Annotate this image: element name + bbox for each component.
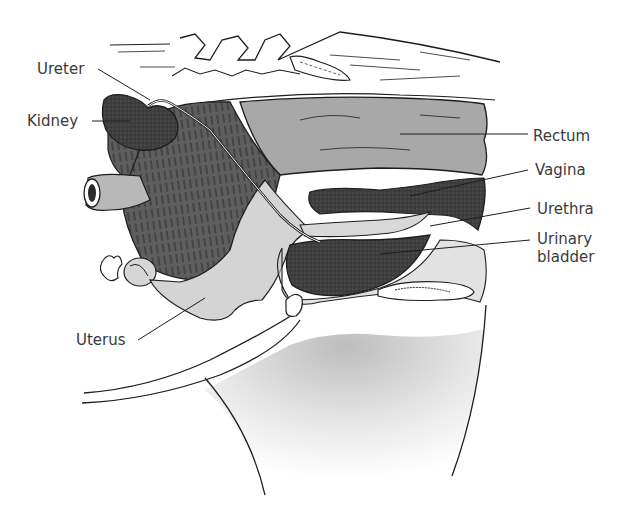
label-uterus: Uterus [76, 331, 126, 349]
pelvic-anatomy-diagram [0, 0, 629, 517]
label-kidney: Kidney [27, 112, 78, 130]
label-urinary-bladder: Urinary bladder [537, 230, 607, 266]
leader-uterus [138, 298, 205, 340]
vagina [300, 178, 485, 237]
ovary-fallopian-tube [100, 256, 156, 286]
label-ureter: Ureter [37, 60, 84, 78]
spine-sacrum [103, 31, 500, 103]
label-rectum: Rectum [533, 127, 590, 145]
label-vagina: Vagina [535, 161, 586, 179]
lower-body-region [82, 305, 486, 495]
label-urethra: Urethra [537, 200, 594, 218]
rectum [240, 97, 487, 175]
